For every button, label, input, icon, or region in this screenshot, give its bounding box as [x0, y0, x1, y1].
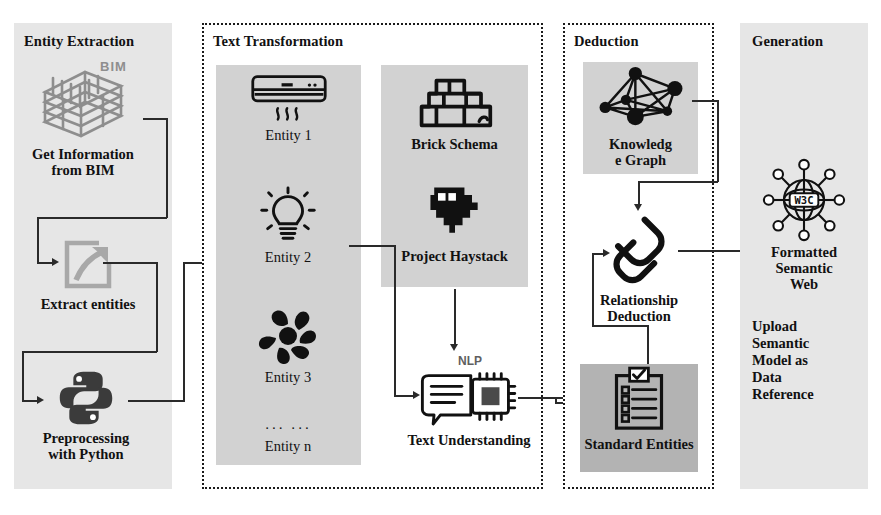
- node-entity-n[interactable]: ··· ··· Entity n: [240, 418, 336, 454]
- diagram-canvas: Entity Extraction BIM Get Information fr…: [0, 0, 881, 515]
- node-label-entity-n: Entity n: [240, 438, 336, 454]
- wire-extract-to-python-v2: [22, 351, 24, 401]
- checklist-clipboard-icon: [609, 366, 669, 434]
- node-label-entity-1: Entity 1: [222, 127, 355, 143]
- node-label-project-haystack: Project Haystack: [382, 248, 527, 264]
- node-label-knowledge-graph: Knowledg e Graph: [585, 136, 696, 168]
- node-relationship-deduction[interactable]: Relationship Deduction: [578, 212, 700, 324]
- wire-std-to-rel-h: [592, 325, 648, 327]
- node-label-relationship-deduction: Relationship Deduction: [578, 292, 700, 324]
- light-bulb-icon: [257, 185, 319, 247]
- arrowhead-into-python: [37, 396, 44, 404]
- node-project-haystack[interactable]: Project Haystack: [382, 178, 527, 264]
- node-label-get-information-from-bim: Get Information from BIM: [18, 146, 148, 178]
- nlp-badge-label: NLP: [458, 354, 482, 368]
- wire-bim-to-extract-h1: [143, 118, 167, 120]
- entity-n-ellipsis-icon: ··· ···: [240, 420, 336, 436]
- node-brick-schema[interactable]: Brick Schema: [385, 72, 524, 152]
- wire-std-to-rel-v2: [592, 253, 594, 326]
- wire-kg-to-rel-v2: [638, 181, 640, 205]
- air-conditioner-icon: [248, 73, 330, 125]
- arrowhead-into-relationship-deduction: [634, 204, 642, 211]
- wire-python-to-tt-v: [183, 262, 185, 402]
- fan-icon: [255, 305, 321, 367]
- wire-bim-to-extract-h2: [37, 217, 167, 219]
- nlp-chip-chat-icon: [417, 368, 521, 428]
- node-entity-3[interactable]: Entity 3: [240, 305, 336, 385]
- extract-arrow-icon: [59, 238, 117, 294]
- generation-note: Upload Semantic Model as Data Reference: [752, 318, 862, 404]
- brick-wall-icon: [416, 72, 494, 134]
- node-entity-1[interactable]: Entity 1: [222, 73, 355, 143]
- w3c-globe-icon: W3C: [762, 158, 846, 242]
- node-get-information-from-bim[interactable]: BIM Get Information from BIM: [18, 60, 148, 178]
- node-entity-2[interactable]: Entity 2: [238, 185, 338, 265]
- wire-entity-to-understanding-v: [394, 245, 396, 396]
- wire-extract-to-python-h3: [22, 400, 38, 402]
- wire-entity-to-understanding-h1: [349, 245, 395, 247]
- node-label-text-understanding: Text Understanding: [404, 432, 534, 448]
- wire-extract-to-python-h1: [103, 262, 157, 264]
- wire-kg-to-rel-h2: [638, 181, 718, 183]
- wire-extract-to-python-h2: [22, 351, 157, 353]
- knowledge-graph-icon: [592, 62, 690, 134]
- node-label-formatted-semantic-web: Formatted Semantic Web: [752, 244, 856, 293]
- node-extract-entities[interactable]: Extract entities: [40, 238, 136, 312]
- wire-bim-to-extract-v: [166, 118, 168, 218]
- w3c-badge-text: W3C: [795, 194, 814, 206]
- node-label-standard-entities: Standard Entities: [580, 436, 698, 452]
- node-label-entity-3: Entity 3: [240, 369, 336, 385]
- node-text-understanding[interactable]: NLP Text Understanding: [404, 356, 534, 448]
- node-preprocessing-with-python[interactable]: Preprocessing with Python: [24, 368, 148, 462]
- node-label-preprocessing-with-python: Preprocessing with Python: [24, 430, 148, 462]
- node-standard-entities[interactable]: Standard Entities: [580, 366, 698, 452]
- chain-link-icon: [603, 212, 675, 290]
- wire-bim-to-extract-v2: [37, 217, 39, 263]
- wire-kg-to-rel-h: [692, 100, 719, 102]
- node-label-brick-schema: Brick Schema: [385, 136, 524, 152]
- wire-extract-to-python-v1: [156, 262, 158, 352]
- wire-kg-to-rel-v: [717, 100, 719, 182]
- wire-schemas-to-understanding: [454, 289, 456, 345]
- panel-title-deduction: Deduction: [574, 33, 639, 50]
- arrowhead-into-relationship-deduction-left: [603, 249, 610, 257]
- node-label-extract-entities: Extract entities: [40, 296, 136, 312]
- panel-title-generation: Generation: [752, 33, 823, 50]
- haystack-stack-icon: [421, 178, 489, 246]
- figure-caption-strip: [0, 501, 881, 515]
- arrowhead-into-text-understanding-top: [450, 344, 458, 351]
- panel-title-entity-extraction: Entity Extraction: [24, 33, 134, 50]
- wire-python-to-tt-h1: [128, 400, 184, 402]
- wire-bim-to-extract-h3: [37, 262, 53, 264]
- python-icon: [56, 368, 116, 428]
- arrowhead-into-extract-entities: [52, 258, 59, 266]
- node-formatted-semantic-web[interactable]: W3C Formatted Semantic Web: [752, 158, 856, 293]
- bim-badge-label: BIM: [100, 59, 127, 74]
- panel-title-text-transformation: Text Transformation: [213, 33, 343, 50]
- node-knowledge-graph[interactable]: Knowledg e Graph: [585, 62, 696, 168]
- node-label-entity-2: Entity 2: [238, 249, 338, 265]
